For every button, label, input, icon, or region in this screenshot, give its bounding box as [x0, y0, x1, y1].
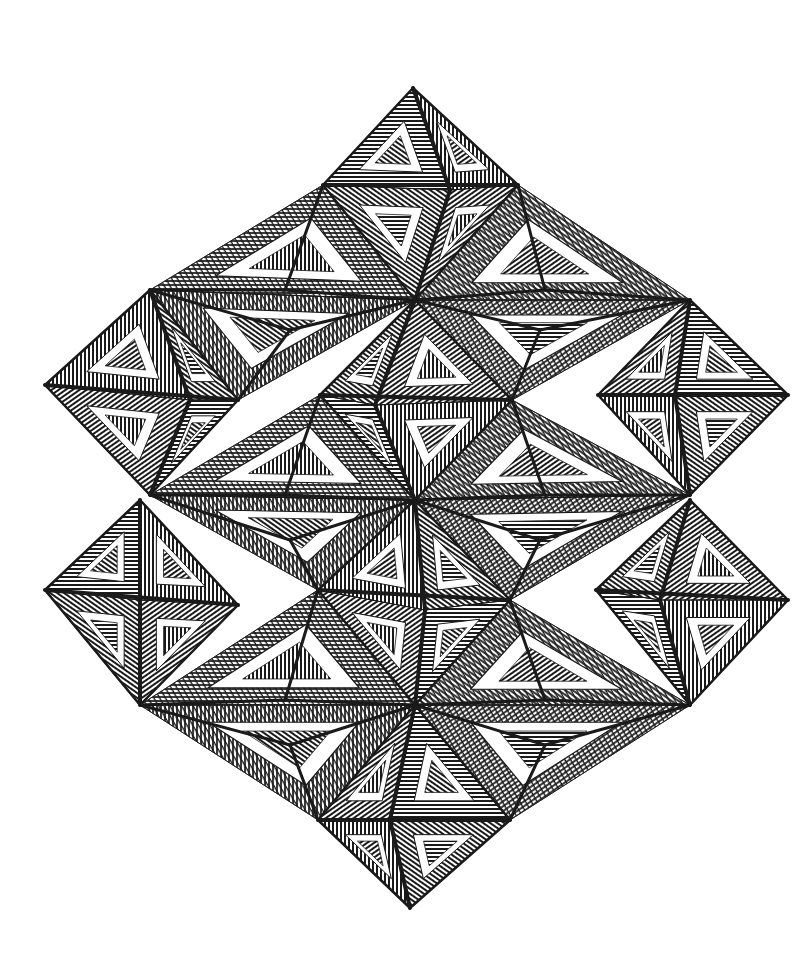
octa-face [45, 385, 190, 495]
op-art-polyhedra-lattice [0, 0, 798, 964]
octa-face [675, 395, 788, 495]
octa-face [675, 300, 788, 395]
